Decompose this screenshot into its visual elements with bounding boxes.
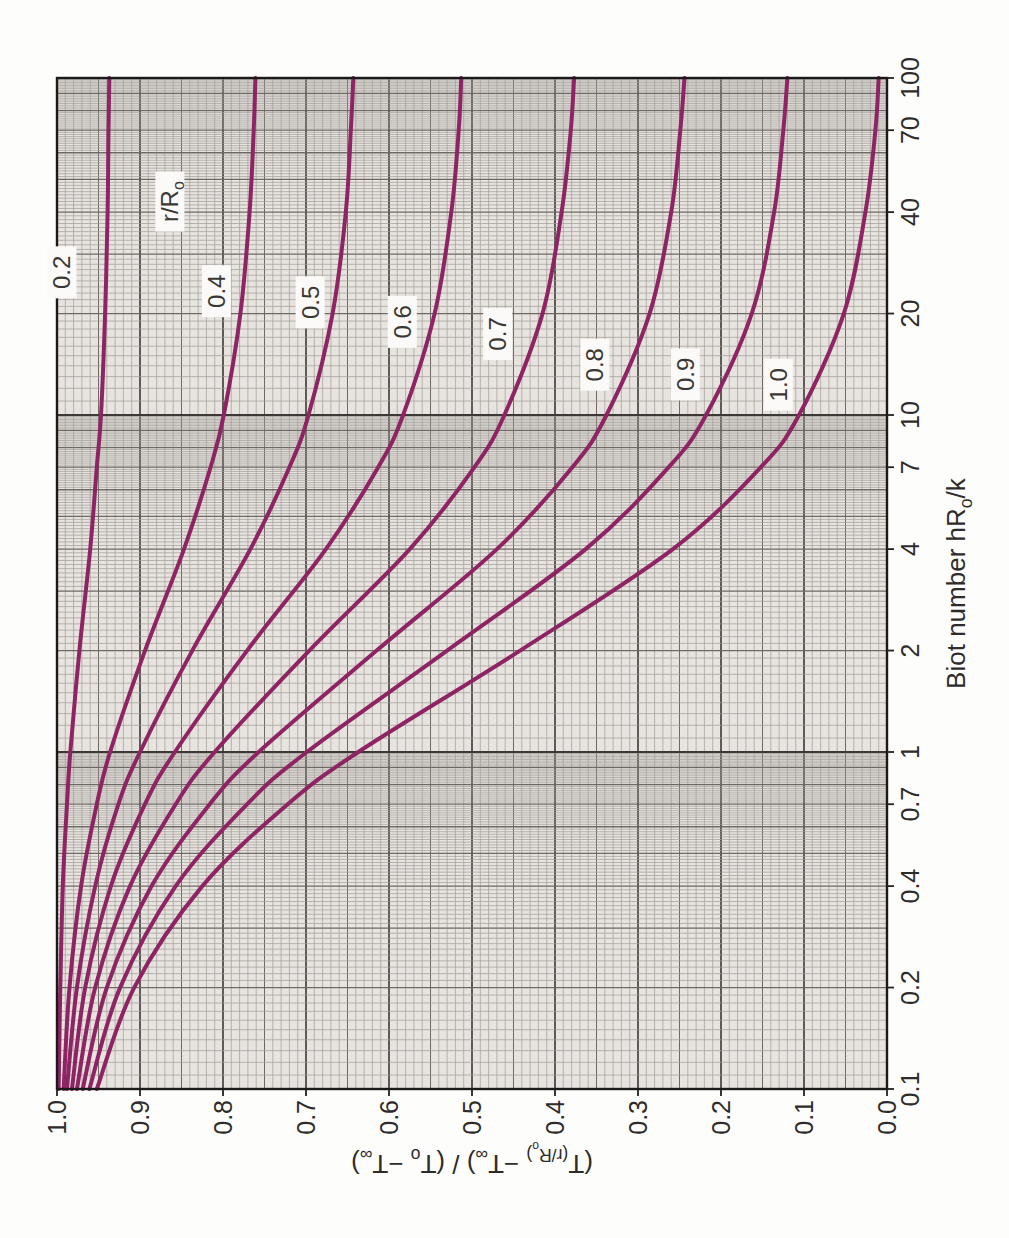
curve-label-0-4: 0.4: [203, 275, 230, 308]
curve-label-0-2: 0.2: [48, 256, 75, 289]
ratio-tick-label-0.8: 0.8: [209, 1100, 237, 1135]
biot-tick-label-4: 4: [896, 542, 924, 556]
biot-tick-label-40: 40: [896, 198, 924, 226]
curve-label-0-9: 0.9: [672, 358, 699, 391]
chart-rotated-group: 0.10.20.40.71247102040701001.00.90.80.70…: [43, 57, 976, 1179]
biot-tick-label-2: 2: [896, 644, 924, 658]
ratio-tick-label-0.1: 0.1: [790, 1100, 818, 1135]
biot-tick-label-7: 7: [896, 460, 924, 474]
biot-tick-label-20: 20: [896, 300, 924, 328]
scanned-chart-page: 0.10.20.40.71247102040701001.00.90.80.70…: [0, 0, 1009, 1238]
ratio-tick-label-0.3: 0.3: [624, 1100, 652, 1135]
ratio-tick-label-0.0: 0.0: [873, 1100, 901, 1135]
ratio-tick-label-0.2: 0.2: [707, 1100, 735, 1135]
curve-label-0-5: 0.5: [297, 286, 324, 319]
curve-label-0-8: 0.8: [581, 348, 608, 381]
biot-tick-label-0.2: 0.2: [896, 970, 924, 1005]
curve-label-1-0: 1.0: [765, 368, 792, 401]
curve-label-0-6: 0.6: [389, 305, 416, 338]
curve-label-0-7: 0.7: [484, 317, 511, 350]
ratio-tick-label-0.9: 0.9: [126, 1100, 154, 1135]
biot-tick-label-70: 70: [896, 116, 924, 144]
ratio-tick-label-0.4: 0.4: [541, 1100, 569, 1135]
heisler-position-chart-svg: 0.10.20.40.71247102040701001.00.90.80.70…: [0, 0, 1009, 1238]
ratio-tick-label-1.0: 1.0: [43, 1100, 71, 1135]
biot-tick-label-0.7: 0.7: [896, 787, 924, 822]
ratio-tick-label-0.5: 0.5: [458, 1100, 486, 1135]
biot-tick-label-1: 1: [896, 745, 924, 759]
temperature-ratio-axis-title: (T(r/Ro) −T∞) / (To −T∞): [351, 1139, 593, 1179]
biot-tick-label-0.4: 0.4: [896, 869, 924, 904]
biot-tick-label-10: 10: [896, 401, 924, 429]
biot-axis-title: Biot number hRo/k: [941, 477, 976, 689]
ratio-tick-label-0.6: 0.6: [375, 1100, 403, 1135]
biot-tick-label-100: 100: [896, 57, 924, 99]
ratio-tick-label-0.7: 0.7: [292, 1100, 320, 1135]
